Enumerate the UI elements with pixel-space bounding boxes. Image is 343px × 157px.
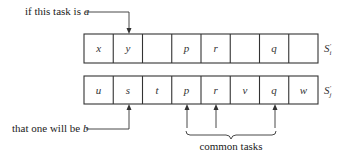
top-cell-4: p (183, 42, 190, 54)
bottom-row-label: Sj' (324, 84, 332, 99)
top-row-label: Si' (324, 42, 332, 57)
task-diagram: x y p r q Si' u s t p r v q w Sj' if thi… (0, 0, 343, 157)
bottom-cell-3: t (156, 84, 160, 96)
bottom-cell-1: u (96, 84, 102, 96)
top-pointer-line (85, 12, 129, 29)
top-pointer: if this task is a (25, 5, 132, 34)
arrow-up-icon (127, 104, 132, 110)
top-cell-7: q (271, 42, 277, 54)
bottom-cell-5: r (213, 84, 218, 96)
bottom-cell-7: q (271, 84, 277, 96)
arrow-up-icon (214, 104, 219, 110)
top-cell-5: r (213, 42, 218, 54)
arrow-up-icon (185, 104, 190, 110)
top-task-row: x y p r q Si' (84, 34, 332, 63)
bottom-cell-2: s (126, 84, 130, 96)
top-cell-2: y (124, 42, 130, 54)
common-tasks-indicator: common tasks (185, 104, 278, 152)
arrow-up-icon (273, 104, 278, 110)
bottom-task-row: u s t p r v q w Sj' (84, 76, 332, 104)
bottom-pointer-label: that one will be b (12, 122, 89, 134)
top-cell-1: x (95, 42, 101, 54)
common-tasks-label: common tasks (199, 140, 262, 152)
bottom-pointer: that one will be b (12, 104, 132, 134)
curly-brace-icon (186, 131, 276, 139)
bottom-pointer-line (86, 109, 129, 129)
bottom-cell-6: v (242, 84, 247, 96)
arrow-down-icon (127, 28, 132, 34)
top-pointer-label: if this task is a (25, 5, 90, 17)
bottom-cell-8: w (300, 84, 308, 96)
bottom-cell-4: p (183, 84, 190, 96)
